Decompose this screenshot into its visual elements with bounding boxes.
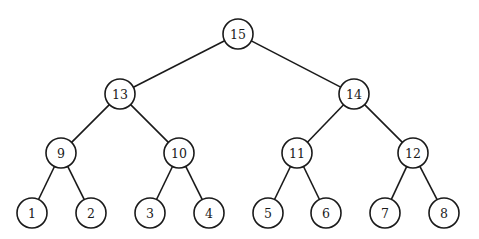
edge-10-3 (157, 167, 173, 200)
tree-node-5: 5 (253, 198, 283, 228)
edge-10-4 (186, 166, 203, 199)
binary-tree-diagram: 151314910111212345678 (0, 0, 479, 239)
edge-12-7 (391, 167, 406, 200)
tree-node-2: 2 (76, 198, 106, 228)
node-label: 3 (146, 206, 154, 221)
edge-9-2 (68, 166, 85, 199)
tree-node-12: 12 (398, 138, 428, 168)
node-label: 4 (205, 206, 213, 221)
tree-node-3: 3 (135, 198, 165, 228)
edge-13-9 (72, 105, 110, 143)
tree-node-14: 14 (339, 79, 369, 109)
node-label: 1 (28, 206, 36, 221)
tree-node-8: 8 (429, 198, 459, 228)
node-label: 15 (230, 27, 246, 42)
tree-node-13: 13 (105, 79, 135, 109)
edge-14-12 (365, 105, 403, 143)
edge-15-14 (251, 41, 340, 87)
edge-11-5 (275, 167, 291, 200)
node-label: 11 (289, 146, 305, 161)
tree-node-6: 6 (311, 198, 341, 228)
edge-11-6 (304, 167, 320, 200)
edge-14-11 (307, 105, 343, 142)
tree-node-1: 1 (17, 198, 47, 228)
edge-12-8 (420, 166, 437, 199)
edge-13-10 (131, 105, 169, 143)
node-label: 12 (405, 146, 421, 161)
node-label: 6 (322, 206, 330, 221)
tree-node-9: 9 (46, 138, 76, 168)
edge-15-13 (133, 41, 224, 87)
node-label: 8 (440, 206, 448, 221)
tree-node-10: 10 (164, 138, 194, 168)
node-label: 2 (87, 206, 95, 221)
node-label: 9 (57, 146, 65, 161)
edges-layer (39, 41, 438, 200)
node-label: 14 (346, 87, 362, 102)
edge-9-1 (39, 167, 55, 200)
node-label: 5 (264, 206, 272, 221)
tree-node-4: 4 (194, 198, 224, 228)
tree-node-15: 15 (223, 19, 253, 49)
tree-node-7: 7 (370, 198, 400, 228)
node-label: 13 (112, 87, 128, 102)
node-label: 10 (171, 146, 187, 161)
tree-node-11: 11 (282, 138, 312, 168)
node-label: 7 (381, 206, 389, 221)
